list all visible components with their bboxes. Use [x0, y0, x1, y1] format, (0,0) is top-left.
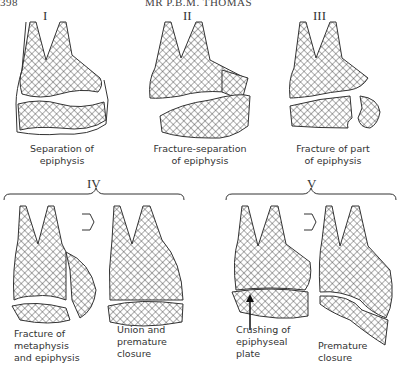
caption-type-2: Fracture-separation of epiphysis [145, 143, 255, 167]
numeral-i: I [43, 8, 47, 24]
numeral-iii: III [313, 8, 326, 24]
caption-type-4-fracture: Fracture of metaphysis and epiphysis [14, 328, 80, 364]
caption-type-1: Separation of epiphysis [22, 143, 102, 167]
numeral-v: V [307, 176, 316, 192]
page-number: 398 [0, 0, 18, 8]
numeral-iv: IV [87, 176, 101, 192]
numeral-ii: II [183, 8, 192, 24]
caption-type-5-closure: Premature closure [318, 340, 367, 364]
bone-type-5-closure [319, 206, 392, 345]
bone-type-5-crush [232, 206, 311, 318]
fracture-diagram [0, 0, 397, 370]
arrow-icon [82, 214, 94, 230]
author-header: MR P.B.M. THOMAS [145, 0, 252, 8]
bone-type-3 [290, 22, 381, 128]
bone-type-1 [16, 22, 108, 135]
bone-type-4-fracture [12, 206, 96, 323]
caption-type-4-union: Union and premature closure [117, 324, 167, 360]
arrow-icon [304, 214, 316, 230]
caption-type-5-crush: Crushing of epiphyseal plate [236, 324, 290, 360]
caption-type-3: Fracture of part of epiphysis [288, 143, 378, 167]
bone-type-4-union [108, 206, 183, 326]
bone-type-2 [150, 22, 250, 138]
